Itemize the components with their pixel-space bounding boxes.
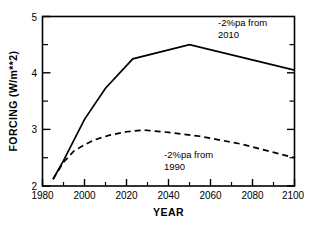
- annotation-lower-line2: 1990: [164, 161, 185, 172]
- x-axis-major-ticks: [43, 179, 295, 186]
- annotation-upper-line2: 2010: [218, 29, 239, 40]
- x-tick-label-2000: 2000: [73, 190, 96, 201]
- x-axis-title: YEAR: [153, 206, 184, 218]
- x-tick-label-2080: 2080: [241, 190, 264, 201]
- y-axis-minor-ticks: [43, 45, 49, 158]
- x-tick-label-2060: 2060: [199, 190, 222, 201]
- annotation-lower-line1: -2%pa from: [164, 149, 213, 160]
- forcing-line-chart: 2 3 4 5 1980 2000 2020 2040 2060 208: [0, 0, 317, 235]
- y-axis-title: FORCING (W/m**2): [7, 51, 19, 152]
- annotation-lower: -2%pa from 1990: [164, 149, 213, 172]
- chart-figure: 2 3 4 5 1980 2000 2020 2040 2060 208: [0, 0, 317, 235]
- x-tick-label-2100: 2100: [282, 190, 305, 201]
- y-tick-label-5: 5: [31, 12, 37, 23]
- x-tick-label-2020: 2020: [115, 190, 138, 201]
- annotation-upper-line1: -2%pa from: [218, 17, 267, 28]
- y-tick-label-3: 3: [31, 124, 37, 135]
- y-tick-label-4: 4: [31, 68, 37, 79]
- annotation-upper: -2%pa from 2010: [218, 17, 267, 40]
- x-tick-label-1980: 1980: [31, 190, 54, 201]
- x-tick-label-2040: 2040: [157, 190, 180, 201]
- y-axis-right-ticks: [287, 45, 295, 186]
